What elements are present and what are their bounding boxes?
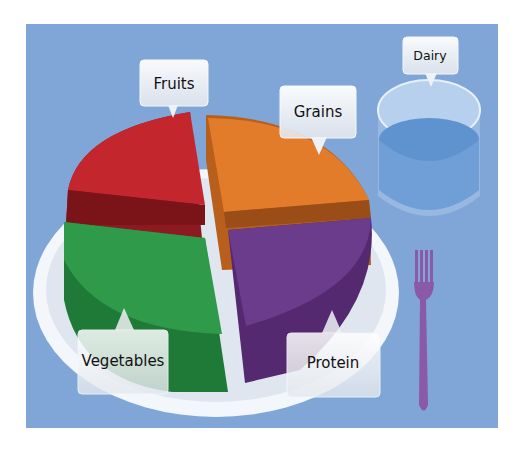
- label-fruits-text: Fruits: [153, 75, 194, 93]
- label-dairy-text: Dairy: [413, 48, 447, 63]
- dairy-glass[interactable]: [378, 80, 480, 216]
- label-grains-text: Grains: [294, 103, 343, 121]
- label-vegetables-text: Vegetables: [82, 352, 165, 370]
- myplate-diagram: Fruits Grains Dairy Vegetables Protein: [0, 0, 529, 453]
- label-protein-text: Protein: [307, 354, 360, 372]
